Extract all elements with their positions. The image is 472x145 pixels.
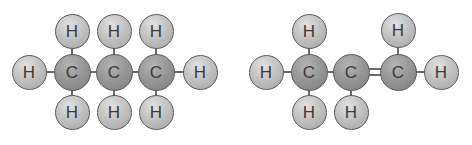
atom-label: C bbox=[108, 64, 120, 81]
atom-label: H bbox=[108, 104, 120, 121]
hydrogen-atom: H bbox=[55, 14, 90, 49]
hydrogen-atom: H bbox=[334, 95, 369, 130]
atom-label: H bbox=[303, 104, 315, 121]
atom-label: H bbox=[23, 64, 35, 81]
hydrogen-atom: H bbox=[292, 95, 327, 130]
carbon-atom: C bbox=[138, 54, 175, 91]
atom-label: H bbox=[303, 23, 315, 40]
atom-label: H bbox=[66, 23, 78, 40]
atom-label: H bbox=[345, 104, 357, 121]
atom-label: H bbox=[150, 23, 162, 40]
hydrogen-atom: H bbox=[381, 13, 416, 48]
atom-label: H bbox=[260, 64, 272, 81]
hydrogen-atom: H bbox=[139, 95, 174, 130]
hydrogen-atom: H bbox=[249, 55, 284, 90]
atom-label: H bbox=[194, 64, 206, 81]
hydrogen-atom: H bbox=[97, 95, 132, 130]
hydrogen-atom: H bbox=[97, 14, 132, 49]
carbon-atom: C bbox=[333, 54, 370, 91]
carbon-atom: C bbox=[291, 54, 328, 91]
atom-label: C bbox=[392, 64, 404, 81]
atom-label: H bbox=[392, 22, 404, 39]
atom-label: H bbox=[108, 23, 120, 40]
molecule-diagram: HCCCHHHHHHH HCCCHHHHH bbox=[0, 0, 472, 145]
atom-label: C bbox=[66, 64, 78, 81]
atom-label: H bbox=[150, 104, 162, 121]
hydrogen-atom: H bbox=[292, 14, 327, 49]
atom-label: C bbox=[150, 64, 162, 81]
carbon-atom: C bbox=[54, 54, 91, 91]
atom-label: C bbox=[345, 64, 357, 81]
hydrogen-atom: H bbox=[183, 55, 218, 90]
atom-label: H bbox=[66, 104, 78, 121]
hydrogen-atom: H bbox=[12, 55, 47, 90]
hydrogen-atom: H bbox=[424, 55, 459, 90]
carbon-atom: C bbox=[380, 54, 417, 91]
atom-label: H bbox=[435, 64, 447, 81]
hydrogen-atom: H bbox=[139, 14, 174, 49]
atom-label: C bbox=[303, 64, 315, 81]
carbon-atom: C bbox=[96, 54, 133, 91]
hydrogen-atom: H bbox=[55, 95, 90, 130]
